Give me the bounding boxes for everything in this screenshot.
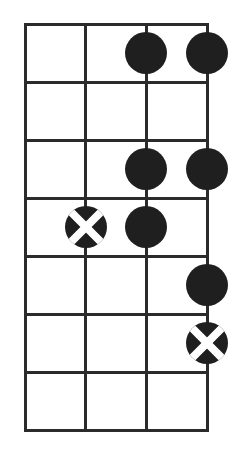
fret-line [24,429,209,432]
fret-line [24,23,209,26]
note-dot-marker [186,148,228,190]
fretboard-diagram [0,0,246,463]
root-note-x-marker [186,322,228,364]
root-note-x-marker [65,206,107,248]
fret-line [24,255,209,258]
note-dot-marker [186,32,228,74]
string-line [24,23,27,432]
string-line [206,23,209,432]
fret-line [24,81,209,84]
fret-line [24,197,209,200]
note-dot-marker [125,148,167,190]
fret-line [24,371,209,374]
fret-line [24,313,209,316]
note-dot-marker [125,206,167,248]
note-dot-marker [186,264,228,306]
note-dot-marker [125,32,167,74]
fret-line [24,139,209,142]
